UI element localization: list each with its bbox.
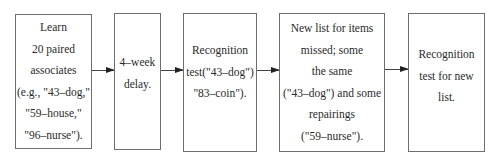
arrow-delay-to-test1	[161, 70, 183, 71]
step-test1-line: Recognition	[192, 40, 248, 62]
step-newlist-box: New list for items missed; some the same…	[279, 13, 385, 152]
step-learn-line: associates	[31, 60, 77, 82]
step-newlist-line: ("43–dog") and some	[283, 83, 381, 105]
step-test1-line: test("43–dog")	[186, 62, 254, 84]
step-learn-box: Learn 20 paired associates (e.g., "43–do…	[15, 14, 92, 149]
step-delay-line: 4–week	[120, 52, 156, 74]
step-test2-line: test for new	[419, 66, 473, 88]
step-newlist-line: the same	[312, 61, 353, 83]
step-test1-box: Recognition test("43–dog") "83–coin").	[183, 13, 257, 152]
step-learn-line: "96–nurse").	[24, 125, 82, 147]
arrow-newlist-to-test2	[385, 69, 408, 70]
step-newlist-line: ("59–nurse").	[301, 126, 363, 148]
step-test2-box: Recognition test for new list.	[408, 13, 485, 152]
step-test2-line: Recognition	[418, 44, 474, 66]
step-test2-line: list.	[438, 87, 455, 109]
step-newlist-line: repairings	[309, 104, 355, 126]
step-newlist-line: New list for items	[291, 18, 374, 40]
step-newlist-line: missed; some	[301, 40, 363, 62]
arrow-learn-to-delay	[92, 70, 114, 71]
step-learn-line: (e.g., "43–dog,"	[17, 82, 90, 104]
step-delay-box: 4–week delay.	[114, 13, 161, 150]
step-learn-line: Learn	[40, 17, 67, 39]
arrow-test1-to-newlist	[257, 70, 279, 71]
step-delay-line: delay.	[124, 74, 151, 96]
step-learn-line: "59–house,"	[25, 103, 81, 125]
step-learn-line: 20 paired	[32, 39, 75, 61]
step-test1-line: "83–coin").	[193, 83, 246, 105]
